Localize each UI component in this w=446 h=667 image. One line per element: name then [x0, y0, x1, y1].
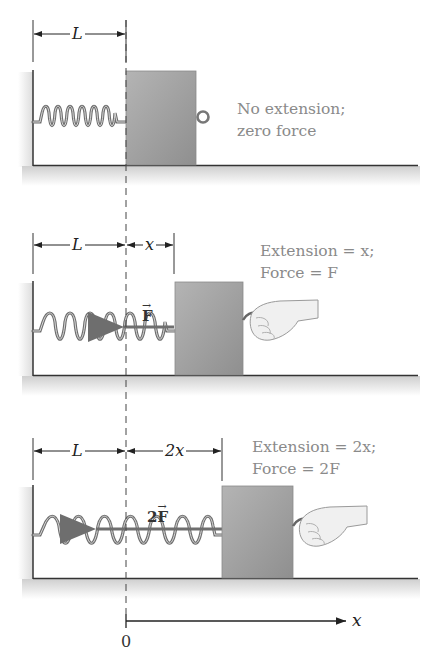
caption-line-1: Extension = 2x; — [252, 436, 376, 458]
caption-line-1: No extension; — [237, 98, 346, 120]
dimension-L-label: L — [70, 237, 85, 253]
panel-extension-2x — [18, 438, 420, 599]
origin-label: 0 — [121, 632, 131, 651]
dimension-x-label: x — [143, 237, 156, 253]
floor-shadow — [22, 166, 420, 186]
block — [175, 282, 243, 375]
panel-no-extension — [18, 20, 420, 186]
caption-line-2: Force = F — [260, 262, 338, 284]
block — [126, 71, 196, 165]
wall-shadow — [18, 72, 33, 167]
dimension-2x-label: 2x — [163, 443, 186, 459]
force-vector-symbol: F — [142, 309, 153, 324]
block — [222, 486, 293, 578]
caption-line-2: zero force — [237, 120, 316, 142]
force-label: 2F — [147, 510, 168, 525]
caption-line-1: Extension = x; — [260, 240, 374, 262]
spring-diagram — [0, 0, 446, 667]
hand-icon — [293, 506, 367, 546]
force-vector-symbol: F — [157, 510, 168, 525]
caption-line-2: Force = 2F — [252, 458, 340, 480]
x-axis-label: x — [352, 610, 362, 630]
ring-icon — [198, 112, 209, 123]
force-coefficient: 2 — [147, 508, 157, 526]
force-label: F — [142, 309, 153, 324]
hand-icon — [243, 300, 318, 340]
dimension-L-label: L — [70, 26, 85, 42]
dimension-L-label: L — [70, 443, 85, 459]
